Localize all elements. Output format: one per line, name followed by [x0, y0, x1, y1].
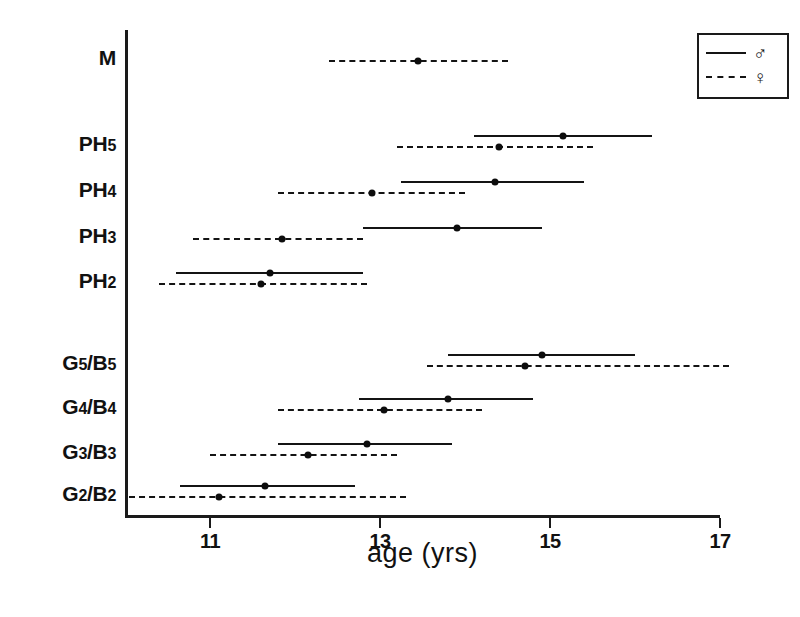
plot-area: 11131517: [125, 30, 720, 518]
mean-marker-PH2-male: [266, 270, 273, 277]
mean-marker-PH3-male: [453, 225, 460, 232]
mean-marker-G5-B5-male: [538, 352, 545, 359]
category-label-G3-B3: G3/B3: [62, 440, 116, 464]
legend-item-male: ♂: [706, 42, 780, 64]
x-axis-line: [125, 515, 720, 518]
mean-marker-G3-B3-male: [364, 441, 371, 448]
mean-marker-M-female: [415, 58, 422, 65]
category-axis-labels: MPH5PH4PH3PH2G5/B5G4/B4G3/B3G2/B2: [0, 0, 116, 617]
category-label-PH2: PH2: [79, 269, 116, 293]
legend-swatch-dashed-line: [706, 76, 746, 78]
mars-icon: ♂: [753, 44, 767, 63]
legend-box: ♂ ♀: [697, 33, 789, 99]
mean-marker-PH5-male: [559, 133, 566, 140]
category-label-PH4: PH4: [79, 178, 116, 202]
mean-marker-PH4-female: [368, 190, 375, 197]
x-tick-13: [379, 518, 381, 528]
x-tick-15: [549, 518, 551, 528]
category-label-PH3: PH3: [79, 224, 116, 248]
legend-swatch-solid-line: [706, 52, 746, 54]
mean-marker-PH3-female: [279, 236, 286, 243]
y-axis-line: [125, 30, 128, 518]
x-tick-11: [209, 518, 211, 528]
chart-figure: MPH5PH4PH3PH2G5/B5G4/B4G3/B3G2/B2 111315…: [0, 0, 800, 617]
mean-marker-PH2-female: [258, 281, 265, 288]
mean-marker-G2-B2-male: [262, 483, 269, 490]
range-line-G5-B5-female: [427, 365, 729, 367]
category-label-G2-B2: G2/B2: [62, 482, 116, 506]
mean-marker-PH5-female: [496, 144, 503, 151]
mean-marker-G5-B5-female: [521, 363, 528, 370]
x-tick-17: [719, 518, 721, 528]
mean-marker-G4-B4-male: [445, 396, 452, 403]
mean-marker-G3-B3-female: [304, 452, 311, 459]
x-axis-label: age (yrs): [125, 538, 720, 569]
category-label-M: M: [99, 46, 116, 70]
venus-icon: ♀: [753, 68, 767, 87]
category-label-G5-B5: G5/B5: [62, 351, 116, 375]
mean-marker-G4-B4-female: [381, 407, 388, 414]
legend-item-female: ♀: [706, 66, 780, 88]
mean-marker-G2-B2-female: [215, 494, 222, 501]
category-label-PH5: PH5: [79, 132, 116, 156]
mean-marker-PH4-male: [491, 179, 498, 186]
range-line-G2-B2-female: [129, 496, 405, 498]
category-label-G4-B4: G4/B4: [62, 395, 116, 419]
